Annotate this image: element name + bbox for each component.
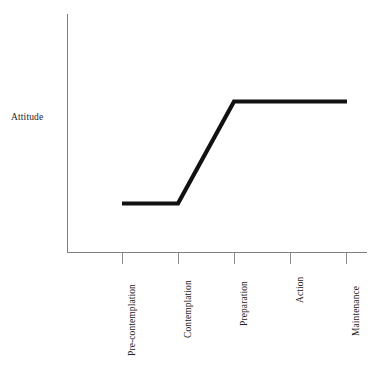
attitude-series-line <box>122 102 347 204</box>
x-label-preparation: Preparation <box>239 281 249 326</box>
y-axis-title: Attitude <box>11 112 43 122</box>
x-label-maintenance: Maintenance <box>351 286 361 336</box>
x-label-action: Action <box>295 277 305 303</box>
x-axis-ticks <box>123 253 347 265</box>
x-label-contemplation: Contemplation <box>183 280 193 338</box>
x-label-pre-contemplation: Pre-contemplation <box>127 284 137 356</box>
chart-figure: Attitude Pre-contemplation Contemplation… <box>0 0 378 374</box>
